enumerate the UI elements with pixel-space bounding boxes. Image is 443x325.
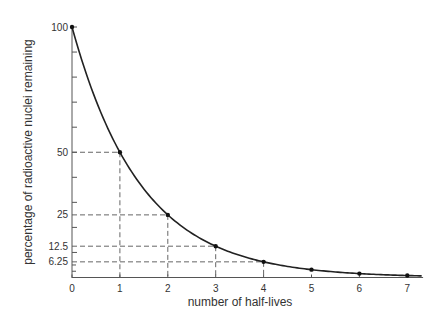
y-ticks: 100502512.56.25 — [49, 22, 77, 278]
y-tick-label: 100 — [51, 22, 68, 33]
data-point — [309, 267, 313, 271]
x-axis-label: number of half-lives — [188, 295, 293, 309]
x-tick-label: 3 — [213, 283, 219, 294]
x-tick-label: 2 — [165, 283, 171, 294]
data-point — [166, 213, 170, 217]
data-point — [118, 150, 122, 154]
data-point — [357, 271, 361, 275]
y-axis-label: percentage of radioactive nuclei remaini… — [21, 39, 35, 264]
y-tick-label: 12.5 — [49, 241, 69, 252]
y-tick-label: 6.25 — [49, 256, 69, 267]
x-tick-label: 4 — [261, 283, 267, 294]
axes — [72, 26, 423, 278]
decay-chart: 100502512.56.25 01234567 number of half-… — [0, 0, 443, 325]
data-point — [70, 25, 74, 29]
x-tick-label: 5 — [309, 283, 315, 294]
decay-curve — [72, 27, 422, 276]
data-point — [261, 260, 265, 264]
y-tick-label: 50 — [57, 147, 69, 158]
x-tick-label: 1 — [117, 283, 123, 294]
data-points — [70, 25, 410, 278]
y-tick-label: 25 — [57, 209, 69, 220]
data-point — [214, 244, 218, 248]
x-tick-label: 0 — [69, 283, 75, 294]
x-tick-label: 6 — [357, 283, 363, 294]
x-tick-label: 7 — [405, 283, 411, 294]
data-point — [405, 273, 409, 277]
